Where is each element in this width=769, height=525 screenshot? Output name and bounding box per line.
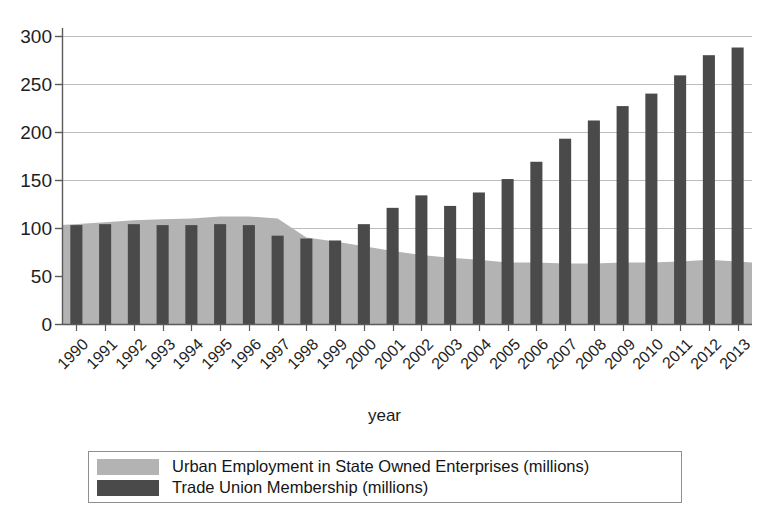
bar-trade-union-1997 (272, 236, 284, 324)
bar-trade-union-1990 (70, 225, 82, 324)
bar-trade-union-2008 (588, 120, 600, 324)
bar-trade-union-1992 (128, 224, 140, 324)
chart-container: 050100150200250300 199019911992199319941… (0, 0, 769, 525)
bar-trade-union-2011 (674, 75, 686, 324)
legend-label-urban-employment: Urban Employment in State Owned Enterpri… (172, 458, 589, 475)
y-tick-label: 250 (6, 75, 52, 94)
y-tick-label: 300 (6, 27, 52, 46)
bar-trade-union-1999 (329, 240, 341, 324)
y-tick-label: 0 (6, 315, 52, 334)
bar-trade-union-1991 (99, 224, 111, 324)
y-axis: 050100150200250300 (0, 0, 52, 430)
bar-trade-union-1993 (157, 225, 169, 324)
bar-trade-union-1998 (300, 239, 312, 324)
legend-swatch-trade-union (97, 480, 159, 496)
bar-trade-union-2001 (387, 208, 399, 324)
bar-trade-union-2002 (415, 195, 427, 324)
bar-trade-union-2005 (502, 179, 514, 324)
plot-area: 050100150200250300 199019911992199319941… (0, 0, 769, 430)
bar-trade-union-2006 (530, 162, 542, 324)
x-axis-title: year (0, 406, 769, 426)
bar-trade-union-2009 (617, 106, 629, 324)
bar-trade-union-2010 (645, 94, 657, 324)
y-tick-label: 100 (6, 219, 52, 238)
y-tick-label: 200 (6, 123, 52, 142)
legend-item-trade-union: Trade Union Membership (millions) (89, 477, 681, 498)
y-tick-label: 50 (6, 267, 52, 286)
bar-trade-union-2012 (703, 55, 715, 324)
bar-trade-union-2004 (473, 192, 485, 324)
bar-trade-union-2003 (444, 206, 456, 324)
legend-label-trade-union: Trade Union Membership (millions) (172, 479, 428, 496)
y-tick-label: 150 (6, 171, 52, 190)
bar-trade-union-1996 (243, 225, 255, 324)
bar-trade-union-2000 (358, 224, 370, 324)
chart-legend: Urban Employment in State Owned Enterpri… (88, 451, 682, 503)
bar-trade-union-2013 (732, 48, 744, 324)
bar-trade-union-2007 (559, 139, 571, 324)
legend-item-urban-employment: Urban Employment in State Owned Enterpri… (89, 456, 681, 477)
bar-trade-union-1995 (214, 224, 226, 324)
bar-trade-union-1994 (185, 225, 197, 324)
legend-swatch-urban-employment (97, 459, 159, 475)
